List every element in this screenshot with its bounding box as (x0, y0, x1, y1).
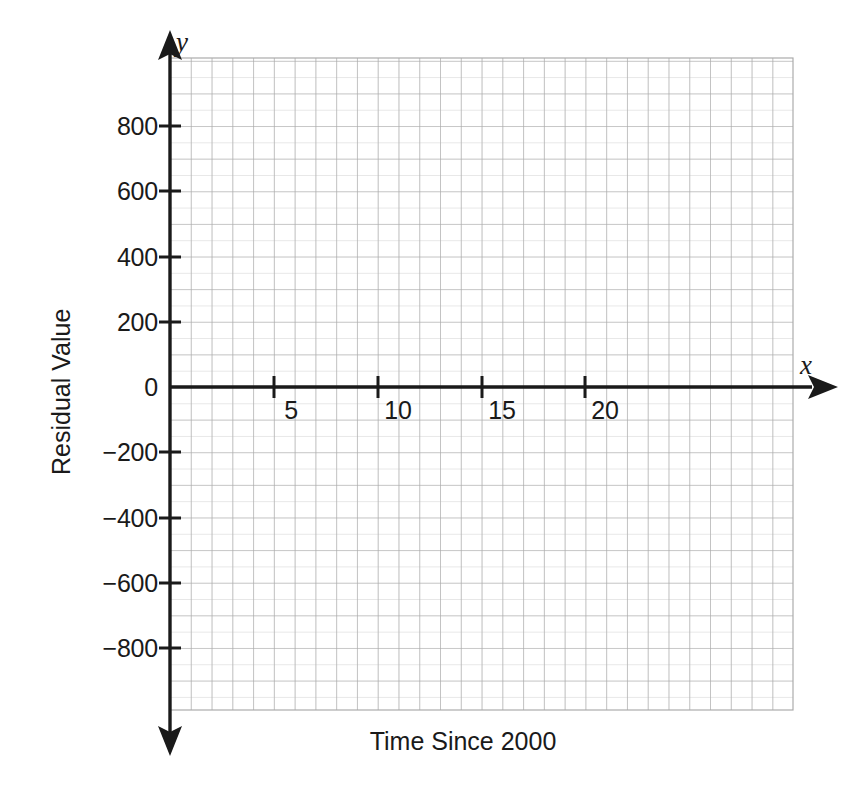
y-tick-label-neg600: −600 (102, 569, 158, 598)
y-tick-label-200: 200 (117, 308, 158, 337)
x-tick-label-15: 15 (488, 396, 515, 425)
y-axis-symbol: y (176, 27, 188, 58)
x-tick-label-5: 5 (284, 396, 298, 425)
y-tick-label-600: 600 (117, 177, 158, 206)
y-tick-label-neg400: −400 (102, 504, 158, 533)
x-axis-title: Time Since 2000 (370, 727, 557, 756)
y-tick-label-0: 0 (144, 373, 158, 402)
y-tick-label-neg200: −200 (102, 438, 158, 467)
y-axis-title: Residual Value (47, 309, 76, 475)
x-axis-symbol: x (800, 350, 812, 381)
x-tick-label-20: 20 (591, 396, 618, 425)
y-tick-label-800: 800 (117, 112, 158, 141)
residual-plot-figure: 800 600 400 200 0 −200 −400 −600 −800 5 … (0, 0, 861, 788)
y-tick-label-neg800: −800 (102, 634, 158, 663)
x-tick-label-10: 10 (384, 396, 411, 425)
y-tick-label-400: 400 (117, 243, 158, 272)
